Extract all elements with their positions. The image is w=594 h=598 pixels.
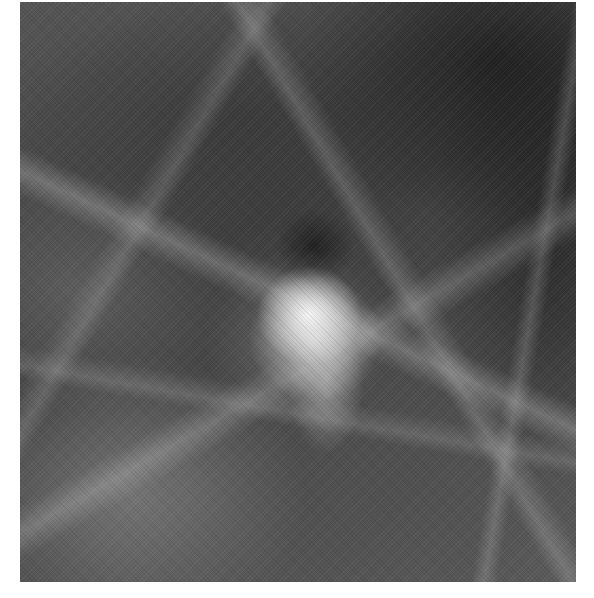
- radiograph-image: [20, 2, 576, 582]
- film-grain: [20, 2, 576, 582]
